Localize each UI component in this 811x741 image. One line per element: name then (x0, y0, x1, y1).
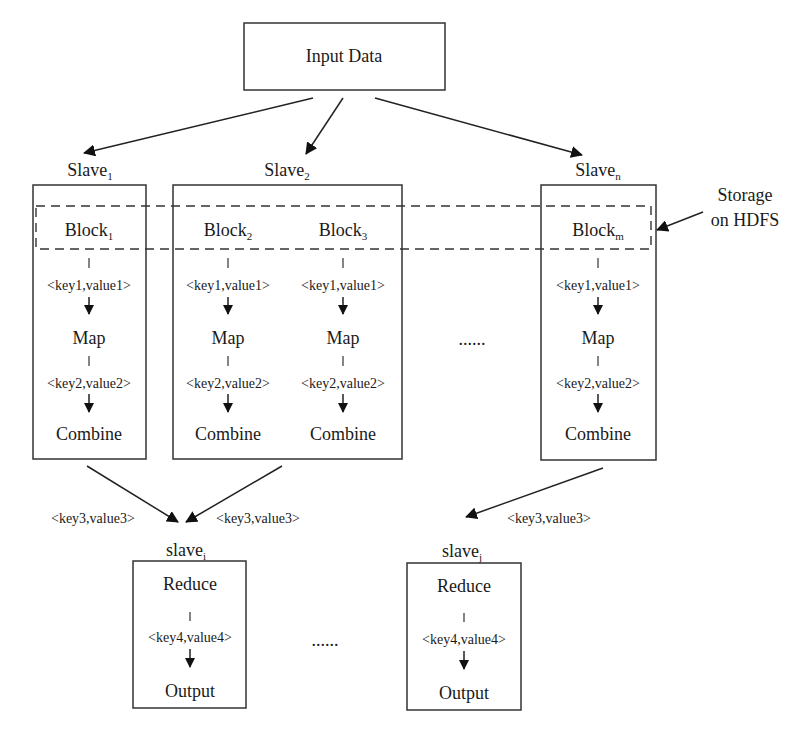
kv2-label: <key2,value2> (186, 376, 270, 391)
arrow-input-to-slave2 (306, 98, 343, 154)
kv1-label: <key1,value1> (186, 278, 270, 293)
map-label: Map (73, 328, 106, 348)
slaves-ellipsis: ...... (459, 329, 486, 349)
reduce-label: Reduce (163, 574, 217, 594)
input-data-node: Input Data (244, 23, 445, 90)
block-2-label: Block2 (204, 220, 253, 242)
slave-2-node: Slave2 (173, 160, 402, 459)
combine-label: Combine (195, 424, 261, 444)
reducer-j-node: slavej Reduce <key4,value4> Output (407, 541, 521, 710)
reducer-i-label: slavei (166, 540, 206, 562)
slave-1-label: Slave1 (67, 160, 113, 182)
block-1-label: Block1 (65, 220, 114, 242)
reducer-j-label: slavej (442, 541, 482, 563)
storage-label-line1: Storage (718, 185, 773, 205)
kv1-label: <key1,value1> (556, 278, 640, 293)
combine-label: Combine (565, 424, 631, 444)
combine-label: Combine (310, 424, 376, 444)
arrow-slaven-to-reducer-j (466, 468, 603, 517)
reduce-label: Reduce (437, 576, 491, 596)
kv2-label: <key2,value2> (47, 376, 131, 391)
combine-label: Combine (56, 424, 122, 444)
output-label: Output (165, 681, 215, 701)
kv4-label: <key4,value4> (422, 632, 506, 647)
kv3-label-middle: <key3,value3> (216, 511, 300, 526)
map-label: Map (327, 328, 360, 348)
slave-2-label: Slave2 (264, 160, 310, 182)
kv2-label: <key2,value2> (556, 376, 640, 391)
arrow-input-to-slaven (375, 98, 582, 155)
storage-label-line2: on HDFS (711, 210, 780, 230)
reducer-i-node: slavei Reduce <key4,value4> Output (133, 540, 246, 708)
block-3-label: Block3 (319, 220, 368, 242)
arrow-storage-pointer (657, 212, 703, 230)
kv3-label-left: <key3,value3> (51, 511, 135, 526)
reducers-ellipsis: ...... (312, 630, 339, 650)
mapreduce-diagram: Input Data Slave1 Slave2 Slaven Storage … (0, 0, 811, 741)
kv1-label: <key1,value1> (301, 278, 385, 293)
kv1-label: <key1,value1> (47, 278, 131, 293)
slave-n-label: Slaven (575, 160, 621, 182)
map-label: Map (212, 328, 245, 348)
arrow-input-to-slave1 (84, 98, 313, 153)
map-label: Map (582, 328, 615, 348)
kv3-label-right: <key3,value3> (507, 511, 591, 526)
kv2-label: <key2,value2> (301, 376, 385, 391)
output-label: Output (439, 683, 489, 703)
input-data-label: Input Data (306, 46, 382, 66)
kv4-label: <key4,value4> (148, 630, 232, 645)
